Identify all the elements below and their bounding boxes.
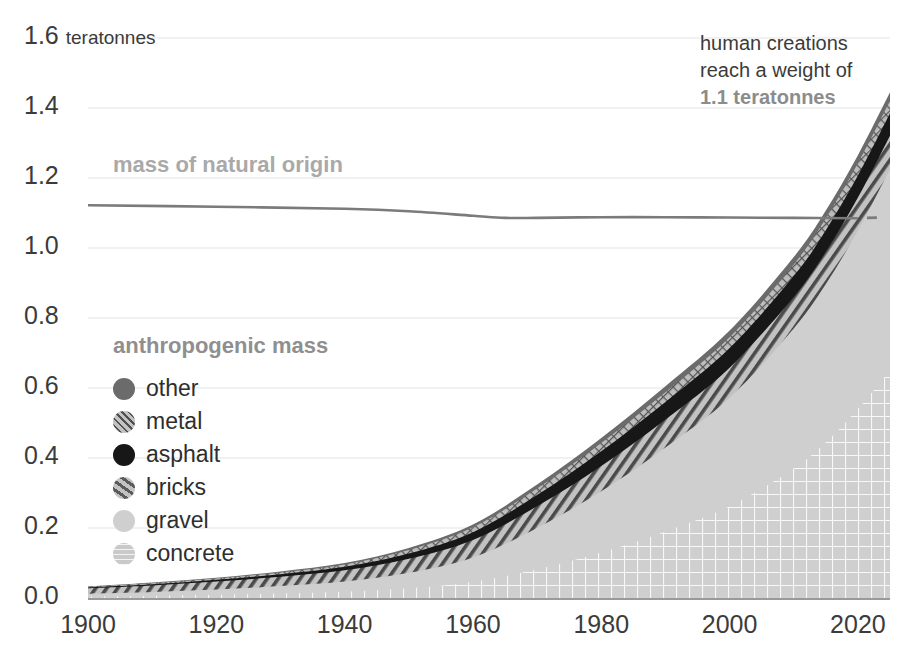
y-axis-tick-label: 0.8 bbox=[24, 301, 59, 330]
legend-item-asphalt[interactable]: asphalt bbox=[113, 438, 234, 471]
x-axis-tick-label: 1980 bbox=[573, 610, 629, 639]
concrete-swatch-icon bbox=[113, 543, 135, 565]
legend-label: asphalt bbox=[146, 441, 220, 468]
legend-label: concrete bbox=[146, 540, 234, 567]
y-axis-tick-label: 1.4 bbox=[24, 91, 59, 120]
bricks-swatch-icon bbox=[113, 477, 135, 499]
y-axis-tick-label: 1.0 bbox=[24, 231, 59, 260]
x-axis-tick-label: 1960 bbox=[445, 610, 501, 639]
legend-item-bricks[interactable]: bricks bbox=[113, 471, 234, 504]
legend-label: metal bbox=[146, 408, 202, 435]
legend-item-other[interactable]: other bbox=[113, 372, 234, 405]
anthropogenic-mass-heading: anthropogenic mass bbox=[113, 333, 328, 359]
legend-label: gravel bbox=[146, 507, 209, 534]
metal-swatch-icon bbox=[113, 411, 135, 433]
legend-item-metal[interactable]: metal bbox=[113, 405, 234, 438]
legend-item-gravel[interactable]: gravel bbox=[113, 504, 234, 537]
x-axis-tick-label: 2000 bbox=[702, 610, 758, 639]
y-axis-top-value: 1.6 bbox=[24, 21, 59, 49]
annotation-callout: human creations reach a weight of 1.1 te… bbox=[700, 30, 905, 111]
asphalt-swatch-icon bbox=[113, 444, 135, 466]
natural-origin-line bbox=[88, 205, 877, 218]
y-axis-tick-label: 0.2 bbox=[24, 511, 59, 540]
chart-container: 0.00.20.40.60.81.01.21.41.6 teratonnes 1… bbox=[0, 0, 905, 654]
y-axis-tick-label: 0.4 bbox=[24, 441, 59, 470]
legend-label: other bbox=[146, 375, 198, 402]
x-axis-tick-label: 1920 bbox=[189, 610, 245, 639]
y-axis-tick-label: 0.6 bbox=[24, 371, 59, 400]
annotation-line-3-value: 1.1 teratonnes bbox=[700, 84, 905, 111]
x-axis-tick-label: 1900 bbox=[60, 610, 116, 639]
other-swatch-icon bbox=[113, 378, 135, 400]
annotation-line-2: reach a weight of bbox=[700, 59, 852, 81]
y-axis-unit-label: teratonnes bbox=[66, 27, 156, 48]
y-axis-tick-label: 0.0 bbox=[24, 581, 59, 610]
legend-item-concrete[interactable]: concrete bbox=[113, 537, 234, 570]
gravel-swatch-icon bbox=[113, 510, 135, 532]
x-axis-tick-label: 2020 bbox=[830, 610, 886, 639]
y-axis-tick-label: 1.6 teratonnes bbox=[24, 21, 156, 50]
annotation-line-1: human creations bbox=[700, 32, 848, 54]
natural-origin-label: mass of natural origin bbox=[113, 152, 343, 178]
legend: othermetalasphaltbricksgravelconcrete bbox=[113, 372, 234, 570]
legend-label: bricks bbox=[146, 474, 206, 501]
y-axis-tick-label: 1.2 bbox=[24, 161, 59, 190]
x-axis-tick-label: 1940 bbox=[317, 610, 373, 639]
